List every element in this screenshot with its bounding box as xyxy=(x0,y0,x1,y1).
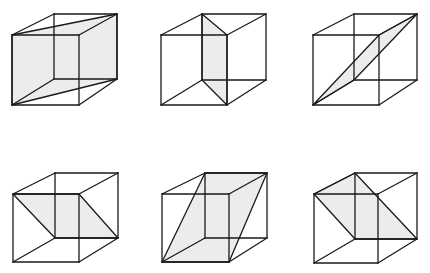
cube-edge xyxy=(161,14,202,35)
cube-edge xyxy=(79,238,118,262)
cube-edge xyxy=(314,239,355,263)
cube-edge xyxy=(13,238,55,262)
cube-diagram xyxy=(0,0,430,273)
cube-6 xyxy=(314,173,417,263)
cube-edge xyxy=(378,239,417,263)
cube-edge xyxy=(313,14,354,35)
cube-edge xyxy=(379,80,417,105)
cube-3 xyxy=(313,14,417,105)
cube-edge xyxy=(227,14,266,35)
cube-edge xyxy=(378,173,417,194)
section-plane xyxy=(314,173,417,239)
cube-edge xyxy=(227,80,266,105)
cube-5 xyxy=(162,173,267,262)
section-plane xyxy=(202,14,227,105)
cube-edge xyxy=(79,173,118,194)
cube-1 xyxy=(12,14,117,105)
cube-4 xyxy=(13,173,118,262)
section-plane xyxy=(13,194,118,238)
cube-2 xyxy=(161,14,266,105)
cube-edge xyxy=(161,80,202,105)
cube-edge xyxy=(13,173,55,194)
